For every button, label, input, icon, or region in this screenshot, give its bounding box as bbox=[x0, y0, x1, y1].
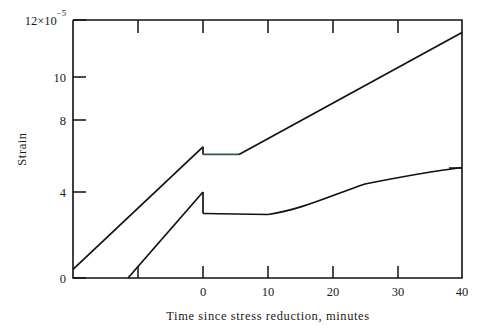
y-tick-label-4: 4 bbox=[60, 186, 67, 200]
x-tick-label-10: 10 bbox=[262, 285, 275, 299]
y-axis-title: Strain bbox=[15, 132, 29, 166]
y-unit-mantissa: 12×10 bbox=[25, 14, 57, 28]
y-unit-exponent: −5 bbox=[57, 8, 66, 18]
y-axis-tick-labels: 12×10−5 10 8 4 0 bbox=[25, 8, 67, 286]
x-tick-label-20: 20 bbox=[327, 285, 340, 299]
x-tick-label-0: 0 bbox=[200, 285, 206, 299]
lower-curve-loading-creep bbox=[128, 192, 203, 278]
x-tick-label-40: 40 bbox=[456, 285, 469, 299]
axis-frame bbox=[73, 20, 462, 278]
lower-curve bbox=[128, 168, 462, 279]
y-tick-label-0: 0 bbox=[60, 272, 66, 286]
x-axis-tick-labels: 0 10 20 30 40 bbox=[200, 285, 468, 299]
x-axis-title: Time since stress reduction, minutes bbox=[166, 309, 369, 323]
upper-curve-loading-creep bbox=[73, 147, 203, 270]
upper-curve bbox=[73, 32, 462, 269]
y-tick-label-8: 8 bbox=[60, 114, 66, 128]
lower-curve-recovery-plateau bbox=[203, 214, 268, 215]
lower-curve-re-creep bbox=[268, 168, 462, 215]
strain-time-chart: 12×10−5 10 8 4 0 0 bbox=[0, 0, 488, 330]
y-tick-label-10: 10 bbox=[54, 71, 67, 85]
x-axis-ticks bbox=[138, 266, 398, 278]
upper-curve-secondary-creep bbox=[239, 32, 462, 154]
x-tick-label-30: 30 bbox=[392, 285, 405, 299]
y-axis-ticks bbox=[73, 20, 86, 278]
x-axis-top-ticks bbox=[138, 20, 398, 33]
y-tick-label-12: 12×10−5 bbox=[25, 8, 66, 28]
figure-container: 12×10−5 10 8 4 0 0 bbox=[0, 0, 488, 330]
